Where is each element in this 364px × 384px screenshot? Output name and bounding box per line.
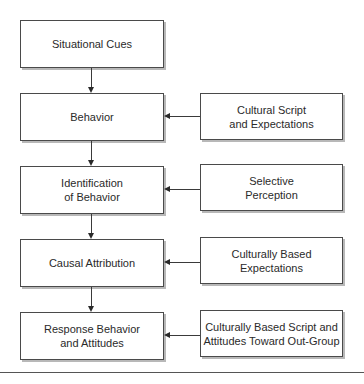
bottom-rule	[0, 372, 364, 373]
node-behavior: Behavior	[20, 93, 164, 141]
arrow-left-icon	[164, 259, 170, 265]
arrow-left-icon	[164, 113, 170, 119]
arrow-down-icon	[88, 87, 94, 93]
connector-h1	[166, 116, 200, 117]
node-identification-of-behavior: Identification of Behavior	[20, 166, 164, 214]
arrow-down-icon	[88, 233, 94, 239]
node-response-behavior: Response Behavior and Attitudes	[20, 312, 164, 360]
node-culturally-based-expectations: Culturally Based Expectations	[200, 237, 343, 284]
arrow-left-icon	[164, 186, 170, 192]
node-selective-perception: Selective Perception	[200, 164, 343, 211]
node-causal-attribution: Causal Attribution	[20, 239, 164, 287]
connector-4	[91, 287, 92, 306]
arrow-down-icon	[88, 306, 94, 312]
connector-1	[91, 68, 92, 87]
node-situational-cues: Situational Cues	[20, 20, 164, 68]
connector-3	[91, 214, 92, 233]
connector-h4	[166, 335, 200, 336]
connector-2	[91, 141, 92, 160]
arrow-down-icon	[88, 160, 94, 166]
connector-h3	[166, 262, 200, 263]
node-culturally-based-script-attitudes: Culturally Based Script and Attitudes To…	[200, 310, 343, 357]
node-cultural-script: Cultural Script and Expectations	[200, 93, 343, 140]
connector-h2	[166, 189, 200, 190]
arrow-left-icon	[164, 332, 170, 338]
